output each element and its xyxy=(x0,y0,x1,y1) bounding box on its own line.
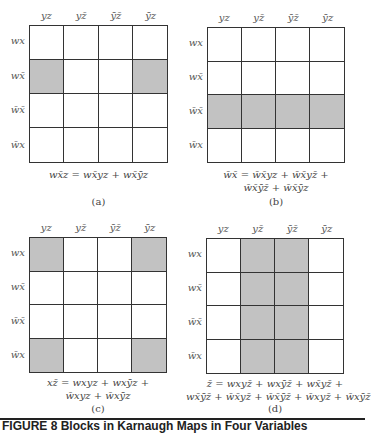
kmap-cell-shaded xyxy=(275,340,309,374)
row-label: w̄x̄ xyxy=(3,104,25,115)
kmap-cell xyxy=(208,28,242,62)
map-expression: z̄ = wxyz̄ + wxȳz̄ + wx̄yz̄ + xyxy=(186,377,364,390)
kmap-cell-shaded xyxy=(30,238,64,272)
kmap-cell xyxy=(208,129,242,163)
kmap-cell xyxy=(207,340,241,374)
kmap-cell xyxy=(242,28,276,62)
column-label: ȳz xyxy=(311,12,345,23)
kmap-cell-shaded xyxy=(241,340,275,374)
kmap-cell xyxy=(30,305,64,339)
map-sublabel: (c) xyxy=(29,403,167,414)
map-expression: xz̄ = wxyz + wxȳz + xyxy=(9,376,187,389)
kmap-cell xyxy=(276,129,310,163)
kmap-cell-shaded xyxy=(208,95,242,129)
map-expression: w̄xyz + w̄xȳz xyxy=(9,389,187,402)
row-label: w̄x̄ xyxy=(3,315,25,326)
kmap-cell-shaded xyxy=(132,339,166,373)
kmap-cell-shaded xyxy=(310,95,344,129)
kmap-cell xyxy=(208,62,242,96)
row-label: wx̄ xyxy=(180,282,202,293)
kmap-cell xyxy=(30,272,64,306)
kmap-cell xyxy=(242,62,276,96)
row-label: w̄x xyxy=(180,350,202,361)
kmap-cell-shaded xyxy=(241,239,275,273)
column-label: ȳz̄ xyxy=(99,10,133,21)
kmap-cell xyxy=(99,60,133,94)
column-label: ȳz xyxy=(310,223,344,234)
kmap-cell-shaded xyxy=(133,60,167,94)
map-expression: wx̄z = wx̄yz + wx̄ȳz xyxy=(9,168,188,181)
row-label: wx̄ xyxy=(181,71,203,82)
map-expression: wx̄ȳz̄ + w̄x̄yz̄ + w̄x̄ȳz̄ + w̄xyz̄ + w̄… xyxy=(186,390,364,403)
row-label: wx xyxy=(181,37,203,48)
kmap-cell xyxy=(30,128,64,162)
column-label: yz̄ xyxy=(241,223,275,234)
kmap-cell xyxy=(310,62,344,96)
kmap-cell xyxy=(99,94,133,128)
map-expression: w̄x̄ = w̄x̄yz + w̄x̄yz̄ + xyxy=(187,168,365,181)
kmap-cell xyxy=(276,62,310,96)
kmap-cell xyxy=(99,128,133,162)
kmap-cell xyxy=(132,305,166,339)
kmap-cell xyxy=(309,306,343,340)
kmap-cell xyxy=(64,272,98,306)
column-label: yz̄ xyxy=(64,10,98,21)
kmap-cell xyxy=(310,129,344,163)
kmap-cell xyxy=(132,272,166,306)
kmap-cell-shaded xyxy=(241,306,275,340)
kmap-cell xyxy=(99,26,133,60)
kmap-grid xyxy=(29,25,168,163)
kmap-cell xyxy=(64,339,98,373)
kmap-cell-shaded xyxy=(132,238,166,272)
map-expression: w̄x̄ȳz̄ + w̄x̄ȳz xyxy=(187,181,365,194)
kmap-cell-shaded xyxy=(276,95,310,129)
column-label: ȳz̄ xyxy=(98,222,132,233)
column-label: yz xyxy=(207,12,241,23)
kmap-cell xyxy=(309,273,343,307)
kmap-cell xyxy=(64,26,98,60)
figure-caption: FIGURE 8 Blocks in Karnaugh Maps in Four… xyxy=(2,419,307,433)
row-label: wx xyxy=(180,248,202,259)
row-label: w̄x̄ xyxy=(181,105,203,116)
row-label: wx̄ xyxy=(3,281,25,292)
kmap-cell xyxy=(276,28,310,62)
kmap-grid xyxy=(207,27,345,163)
kmap-cell-shaded xyxy=(242,95,276,129)
kmap-cell xyxy=(133,94,167,128)
row-label: w̄x xyxy=(181,139,203,150)
kmap-cell xyxy=(133,26,167,60)
kmap-cell xyxy=(64,94,98,128)
column-label: ȳz xyxy=(134,10,168,21)
map-sublabel: (a) xyxy=(29,196,168,207)
kmap-cell xyxy=(64,238,98,272)
column-label: yz xyxy=(29,222,63,233)
kmap-cell-shaded xyxy=(241,273,275,307)
kmap-cell xyxy=(309,340,343,374)
kmap-cell xyxy=(64,60,98,94)
map-sublabel: (d) xyxy=(206,403,344,414)
map-sublabel: (b) xyxy=(207,196,345,207)
kmap-cell xyxy=(30,26,64,60)
column-label: ȳz̄ xyxy=(275,223,309,234)
column-label: ȳz xyxy=(133,222,167,233)
kmap-cell-shaded xyxy=(275,306,309,340)
row-label: wx̄ xyxy=(3,70,25,81)
kmap-cell xyxy=(207,239,241,273)
kmap-cell xyxy=(207,273,241,307)
row-label: w̄x xyxy=(3,349,25,360)
kmap-cell xyxy=(64,305,98,339)
kmap-cell xyxy=(242,129,276,163)
kmap-cell-shaded xyxy=(30,339,64,373)
kmap-cell xyxy=(98,305,132,339)
kmap-cell xyxy=(30,94,64,128)
row-label: wx xyxy=(3,35,25,46)
kmap-cell-shaded xyxy=(275,273,309,307)
column-label: yz̄ xyxy=(242,12,276,23)
column-label: yz̄ xyxy=(64,222,98,233)
column-label: yz xyxy=(29,10,63,21)
column-label: yz xyxy=(206,223,240,234)
kmap-grid xyxy=(29,237,167,373)
column-label: ȳz̄ xyxy=(276,12,310,23)
kmap-cell xyxy=(310,28,344,62)
kmap-cell xyxy=(309,239,343,273)
